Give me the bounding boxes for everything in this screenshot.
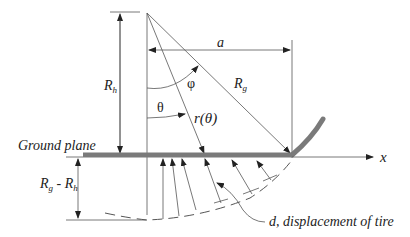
- theta-label: θ: [157, 100, 164, 115]
- tire-contact-diagram: Ground plane x a φ θ r(θ) Rg Rh Rg - Rh …: [0, 0, 410, 237]
- x-axis-label: x: [379, 149, 387, 165]
- rg-minus-rh-label: Rg - Rh: [39, 176, 78, 193]
- displacement-arrows: [163, 159, 277, 219]
- rg-label: Rg: [233, 76, 248, 93]
- undeformed-tire-arc: [105, 160, 292, 220]
- r-theta-label: r(θ): [194, 110, 217, 127]
- rg-minus-rh-dimension: [66, 159, 147, 220]
- theta-arc: [147, 114, 185, 118]
- tire-bulge: [292, 119, 323, 155]
- rh-label: Rh: [103, 78, 118, 95]
- rh-dimension: [110, 12, 140, 153]
- r-theta-line: [147, 13, 204, 153]
- a-dimension: [149, 40, 292, 155]
- rg-radius-line: [147, 13, 290, 153]
- ground-plane-label: Ground plane: [18, 138, 96, 153]
- a-label: a: [217, 35, 224, 50]
- displacement-label: d, displacement of tire: [269, 214, 394, 229]
- phi-label: φ: [187, 76, 195, 91]
